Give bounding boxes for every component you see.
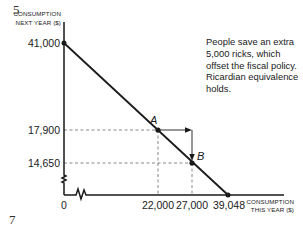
point-b — [189, 160, 194, 165]
x-axis-label-line1: CONSUMPTION — [246, 198, 294, 205]
y-axis — [62, 22, 66, 195]
y-tick-17900: 17,900 — [28, 124, 60, 136]
y-axis-label-line1: CONSUMPTION — [13, 10, 61, 17]
point-a-label: A — [149, 114, 157, 126]
y-tick-41000: 41,000 — [28, 37, 60, 49]
arrow-right-head — [185, 127, 192, 132]
y-axis-label-line2: NEXT YEAR ($) — [16, 19, 61, 26]
y-tick-14650: 14,650 — [28, 157, 60, 169]
x-axis-label-line2: THIS YEAR ($) — [251, 206, 294, 213]
point-b-label: B — [197, 150, 204, 162]
annotation-text: People save an extra 5,000 ricks, which … — [206, 36, 301, 95]
x-tick-39048: 39,048 — [213, 199, 245, 211]
budget-constraint-chart: A B CONSUMPTION NEXT YEAR ($) 41,000 17,… — [0, 0, 303, 229]
x-tick-27000: 27,000 — [176, 199, 208, 211]
guide-lines — [64, 130, 192, 195]
y-intercept-dot — [62, 41, 67, 46]
x-tick-0: 0 — [61, 199, 67, 211]
budget-line — [64, 43, 228, 195]
x-tick-22000: 22,000 — [142, 199, 174, 211]
x-intercept-dot — [226, 193, 231, 198]
